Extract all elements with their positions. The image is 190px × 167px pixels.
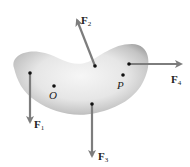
rigid-body	[13, 44, 148, 115]
label-f1: F1	[34, 119, 44, 132]
point-f3	[90, 102, 94, 106]
point-f1	[28, 71, 32, 75]
label-f2: F2	[81, 15, 91, 28]
force-diagram: F1 F2 F3 F4 O P	[0, 0, 190, 167]
point-f4	[127, 62, 131, 66]
diagram-canvas	[0, 0, 190, 167]
point-o	[52, 84, 56, 88]
label-f3: F3	[98, 151, 108, 164]
label-f4: F4	[171, 74, 181, 87]
point-p	[121, 73, 125, 77]
label-o: O	[49, 90, 57, 101]
point-f2	[93, 64, 97, 68]
label-p: P	[117, 80, 124, 91]
